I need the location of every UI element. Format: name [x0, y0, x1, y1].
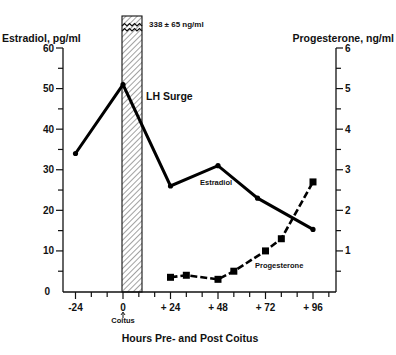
progesterone-point [262, 247, 269, 254]
y-right-tick-label: 6 [345, 43, 351, 54]
y-right-tick-label: 1 [345, 245, 351, 256]
lh-surge-bar [122, 16, 142, 292]
x-tick-label: 0 [120, 302, 126, 313]
x-tick-label: + 48 [208, 302, 228, 313]
estradiol-point [310, 227, 315, 232]
x-tick-label: + 96 [303, 302, 323, 313]
y-right-tick-label: 3 [345, 164, 351, 175]
y-left-tick-label: 50 [43, 83, 55, 94]
estradiol-series-line [76, 85, 314, 230]
progesterone-point [230, 268, 237, 275]
estradiol-point [168, 183, 173, 188]
estradiol-point [215, 163, 220, 168]
y-left-tick-label: 0 [44, 286, 50, 297]
progesterone-point [167, 274, 174, 281]
lh-surge-label: LH Surge [146, 90, 193, 102]
progesterone-point [215, 276, 222, 283]
x-tick-label: + 24 [161, 302, 181, 313]
y-left-tick-label: 30 [43, 164, 55, 175]
axes [63, 48, 336, 292]
y-left-title: Estradiol, pg/ml [2, 32, 81, 44]
y-right-title: Progesterone, ng/ml [292, 32, 394, 44]
progesterone-label: Progesterone [255, 261, 303, 270]
hormone-chart: 0102030405060 123456 -240+ 24+ 48+ 72+ 9… [0, 0, 396, 355]
y-left-tick-label: 40 [43, 124, 55, 135]
x-tick-label: -24 [68, 302, 83, 313]
y-left-tick-label: 60 [43, 43, 55, 54]
x-tick-label: + 72 [256, 302, 276, 313]
progesterone-point [183, 272, 190, 279]
y-right-tick-label: 5 [345, 83, 351, 94]
estradiol-point [120, 82, 125, 87]
estradiol-point [255, 196, 260, 201]
y-left-tick-label: 20 [43, 205, 55, 216]
y-right-tick-label: 4 [345, 124, 351, 135]
y-left-ticks: 0102030405060 [43, 43, 63, 298]
y-right-tick-label: 2 [345, 205, 351, 216]
y-right-ticks: 123456 [336, 43, 351, 272]
x-axis-title: Hours Pre- and Post Coitus [122, 332, 259, 344]
lh-peak-value: 338 ± 65 ng/ml [149, 20, 204, 29]
estradiol-label: Estradiol [200, 178, 232, 187]
coitus-marker: Coitus [111, 312, 134, 325]
coitus-label: Coitus [111, 316, 134, 325]
y-left-tick-label: 10 [43, 245, 55, 256]
estradiol-point [73, 151, 78, 156]
x-ticks: -240+ 24+ 48+ 72+ 96 [68, 292, 329, 313]
progesterone-point [278, 235, 285, 242]
progesterone-point [310, 178, 317, 185]
